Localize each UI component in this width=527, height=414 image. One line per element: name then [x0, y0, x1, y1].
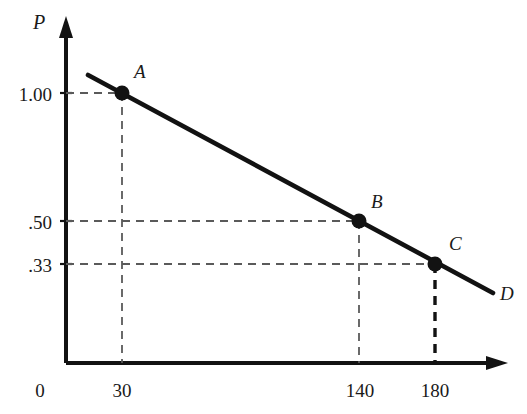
point-label-b: B: [371, 192, 383, 211]
y-tick-label-1.00: 1.00: [0, 85, 52, 104]
x-tick-label-30: 30: [97, 381, 147, 400]
demand-curve-svg: [0, 0, 527, 414]
x-axis-arrowhead: [486, 356, 508, 370]
x-tick-label-0: 0: [15, 381, 65, 400]
data-point-a: [115, 86, 130, 101]
data-point-c: [428, 257, 443, 272]
point-label-c: C: [449, 234, 462, 253]
demand-curve-figure: P 1.00 .50 .33 0 30 140 180 A B C D: [0, 0, 527, 414]
y-axis-label: P: [33, 12, 45, 32]
x-axis: [66, 356, 508, 370]
vertical-drop-lines: [122, 93, 435, 363]
x-tick-label-180: 180: [410, 381, 460, 400]
y-axis: [59, 16, 73, 363]
x-tick-label-140: 140: [335, 381, 385, 400]
demand-curve-label: D: [500, 284, 514, 303]
y-tick-label-0.33: .33: [0, 256, 52, 275]
data-point-b: [352, 214, 367, 229]
point-label-a: A: [134, 62, 146, 81]
y-tick-label-0.50: .50: [0, 213, 52, 232]
y-axis-arrowhead: [59, 16, 73, 38]
